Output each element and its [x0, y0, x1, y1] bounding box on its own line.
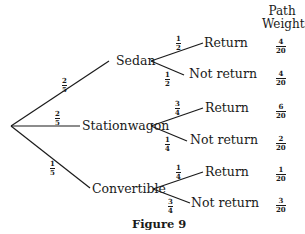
outcome-sedan-return: Return: [204, 36, 248, 50]
prob-convertible-return: 14: [176, 164, 181, 180]
prob-sedan: 25: [62, 77, 67, 93]
outcome-convertible-not-return: Not return: [191, 196, 259, 210]
weight-convertible-not-return: 320: [276, 197, 286, 213]
node-stationwagon: Stationwagon: [82, 119, 169, 133]
prob-sedan-return: 12: [176, 35, 181, 51]
figure-caption: Figure 9: [132, 217, 186, 231]
header-line2: Weights: [262, 18, 302, 31]
node-sedan: Sedan: [116, 54, 155, 68]
weight-convertible-return: 120: [276, 166, 286, 182]
prob-stationwagon: 25: [55, 110, 60, 126]
weight-sedan-return: 420: [276, 38, 286, 54]
prob-stationwagon-return: 34: [175, 100, 180, 116]
prob-stationwagon-not-return: 14: [165, 136, 170, 152]
outcome-sedan-not-return: Not return: [189, 67, 257, 81]
outcome-stationwagon-return: Return: [205, 101, 249, 115]
prob-convertible: 15: [50, 160, 55, 176]
weight-stationwagon-not-return: 220: [276, 135, 286, 151]
branch-sedan: [11, 61, 109, 126]
branch-convertible: [11, 126, 90, 188]
tree-branches: [0, 0, 305, 234]
prob-convertible-not-return: 34: [168, 198, 173, 214]
path-weights-header: Path Weights: [262, 5, 302, 31]
weight-stationwagon-return: 620: [276, 103, 286, 119]
weight-sedan-not-return: 420: [276, 70, 286, 86]
prob-sedan-not-return: 12: [165, 71, 170, 87]
outcome-convertible-return: Return: [205, 165, 249, 179]
outcome-stationwagon-not-return: Not return: [190, 133, 258, 147]
node-convertible: Convertible: [92, 182, 166, 196]
tree-diagram: Path Weights Sedan Stationwagon Converti…: [0, 0, 305, 234]
